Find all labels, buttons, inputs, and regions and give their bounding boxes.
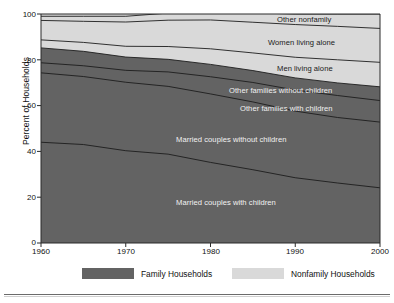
x-tick-label-2000: 2000: [360, 247, 394, 256]
band-label-men-living-alone: Men living alone: [277, 64, 333, 73]
legend-item-nonfamily-households[interactable]: Nonfamily Households: [232, 268, 375, 279]
footer-divider-shadow: [4, 296, 390, 297]
band-label-married-couples-without-children: Married couples without children: [176, 135, 287, 144]
y-tick-marks: [37, 14, 41, 243]
band-label-married-couples-with-children: Married couples with children: [176, 198, 276, 207]
stacked-area-chart-figure: Percent of Households 100 80 60 40 20 0 …: [0, 0, 394, 303]
footer-divider: [4, 294, 390, 295]
y-tick-label-80: 80: [8, 56, 36, 65]
legend-swatch-nonfamily-icon: [232, 268, 284, 279]
legend-label-nonfamily-households: Nonfamily Households: [291, 269, 375, 279]
legend-swatch-family-icon: [82, 268, 134, 279]
x-tick-label-1990: 1990: [275, 247, 315, 256]
legend-item-family-households[interactable]: Family Households: [82, 268, 212, 279]
y-tick-label-60: 60: [8, 101, 36, 110]
x-tick-label-1980: 1980: [191, 247, 231, 256]
y-tick-label-40: 40: [8, 147, 36, 156]
band-label-other-nonfamily: Other nonfamily: [277, 15, 331, 24]
band-label-other-families-without-children: Other families without children: [229, 86, 332, 95]
band-label-women-living-alone: Women living alone: [268, 38, 335, 47]
band-label-other-families-with-children: Other families with children: [240, 104, 333, 113]
y-tick-label-0: 0: [8, 238, 36, 247]
x-tick-label-1960: 1960: [21, 247, 61, 256]
legend-label-family-households: Family Households: [141, 269, 212, 279]
y-tick-label-100: 100: [8, 10, 36, 19]
x-tick-label-1970: 1970: [106, 247, 146, 256]
chart-legend: Family Households Nonfamily Households: [0, 268, 394, 284]
y-tick-label-20: 20: [8, 193, 36, 202]
